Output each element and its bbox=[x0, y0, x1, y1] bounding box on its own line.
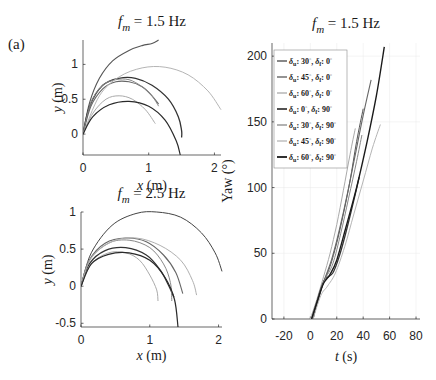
x-tick-label: 0 bbox=[80, 161, 87, 175]
x-tick-label: 0 bbox=[78, 333, 85, 347]
series-line bbox=[83, 40, 159, 134]
x-tick-label: 80 bbox=[409, 329, 423, 343]
series-line bbox=[83, 101, 180, 155]
x-axis-label: x (m) bbox=[136, 348, 167, 364]
legend-label: δu: 45°, δf: 90° bbox=[289, 137, 336, 147]
series-group bbox=[83, 40, 221, 155]
x-tick-label: 40 bbox=[356, 329, 370, 343]
y-axis-label: Yaw (°) bbox=[220, 159, 236, 203]
y-tick-label: 1 bbox=[69, 205, 76, 219]
y-axis-label: y (m) bbox=[50, 82, 66, 114]
x-axis-label: t (s) bbox=[335, 349, 358, 365]
y-tick-label: 1 bbox=[71, 57, 78, 71]
x-tick-label: 20 bbox=[330, 329, 344, 343]
y-tick-label: 0 bbox=[260, 312, 267, 326]
y-tick-label: 200 bbox=[247, 49, 267, 63]
yaw-plot-1-5hz: -20020406080050100150200fm = 1.5 Hzt (s)… bbox=[220, 15, 423, 365]
x-tick-label: 2 bbox=[215, 333, 222, 347]
x-tick-label: 1 bbox=[146, 333, 153, 347]
series-line bbox=[81, 238, 197, 295]
series-line bbox=[81, 238, 183, 294]
series-line bbox=[83, 77, 182, 137]
x-tick-label: 60 bbox=[383, 329, 397, 343]
y-tick-label: 100 bbox=[247, 181, 267, 195]
y-tick-label: 50 bbox=[254, 246, 268, 260]
series-group bbox=[81, 212, 222, 327]
legend: δu: 30°, δf: 0°δu: 45°, δf: 0°δu: 60°, δ… bbox=[274, 50, 347, 168]
chart-title: fm = 1.5 Hz bbox=[312, 15, 380, 35]
series-line bbox=[81, 247, 174, 297]
figure: (a) 01200.51fm = 1.5 Hzx (m)y (m) 012-0.… bbox=[0, 0, 436, 380]
y-tick-label: 0 bbox=[71, 127, 78, 141]
y-tick-label: 150 bbox=[247, 115, 267, 129]
y-tick-label: 0.5 bbox=[59, 242, 76, 256]
legend-label: δu: 60°, δf: 90° bbox=[289, 153, 336, 163]
x-tick-label: 2 bbox=[211, 161, 218, 175]
legend-label: δu: 30°, δf: 90° bbox=[289, 121, 336, 131]
trajectory-plot-1-5hz: 01200.51fm = 1.5 Hzx (m)y (m) bbox=[50, 13, 221, 194]
y-tick-label: -0.5 bbox=[55, 316, 76, 330]
x-tick-label: 0 bbox=[307, 329, 314, 343]
x-tick-label: -20 bbox=[275, 329, 293, 343]
panel-label: (a) bbox=[8, 36, 25, 53]
y-tick-label: 0 bbox=[69, 279, 76, 293]
chart-title: fm = 1.5 Hz bbox=[118, 13, 186, 33]
trajectory-plot-2-5hz: 012-0.500.51fm = 2.5 Hzx (m)y (m) bbox=[40, 185, 222, 364]
x-tick-label: 1 bbox=[145, 161, 152, 175]
chart-title: fm = 2.5 Hz bbox=[117, 185, 185, 205]
y-axis-label: y (m) bbox=[40, 254, 56, 286]
